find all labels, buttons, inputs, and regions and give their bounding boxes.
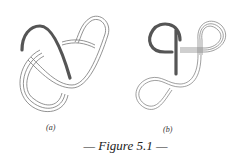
knot-b (136, 21, 226, 109)
panel-b-label: (b) (163, 125, 173, 134)
figure-caption: — Figure 5.1 — (0, 138, 251, 154)
panel-a-label: (a) (46, 123, 56, 132)
knot-a (20, 16, 109, 111)
